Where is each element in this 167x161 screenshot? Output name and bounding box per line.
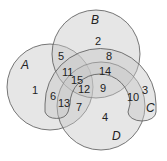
region-2: 2 [95,35,101,47]
region-9: 9 [100,82,106,94]
region-7: 7 [76,101,82,113]
region-4: 4 [102,111,108,123]
region-14: 14 [99,65,111,77]
set-label-d: D [112,129,121,143]
venn-diagram: A B C D 1 2 3 4 5 6 7 8 9 10 11 12 13 14… [0,0,167,161]
region-8: 8 [106,50,112,62]
region-6: 6 [50,90,56,102]
region-15: 15 [71,74,83,86]
region-5: 5 [58,50,64,62]
region-10: 10 [127,91,139,103]
set-label-b: B [91,13,99,27]
region-13: 13 [58,97,70,109]
region-1: 1 [32,84,38,96]
region-3: 3 [142,84,148,96]
set-label-a: A [20,58,29,72]
set-label-c: C [146,101,155,115]
